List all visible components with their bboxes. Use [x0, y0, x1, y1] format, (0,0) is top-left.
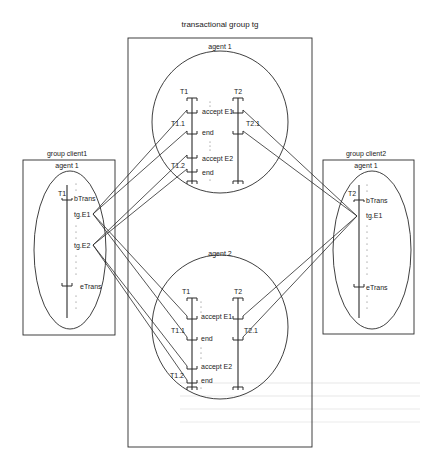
client2-etrans: eTrans: [366, 284, 388, 291]
client2-agent-label: agent 1: [354, 162, 377, 170]
transaction-diagram: transactional group tg agent 1 T1 accept…: [0, 0, 428, 462]
client2-title: group client2: [346, 150, 386, 158]
client2-ellipse: [333, 171, 411, 329]
transactional-group-title: transactional group tg: [182, 20, 259, 29]
tg-a1-t2-label: T2: [234, 88, 242, 95]
tg-a1-accept-e2: accept E2: [202, 155, 233, 163]
client2-box: [323, 160, 414, 334]
client1-tg-e2: tg.E2: [74, 242, 90, 250]
tg-a2-end-1: end: [201, 335, 213, 342]
tg-a2-t1-label: T1: [182, 288, 190, 295]
client2-btrans: bTrans: [366, 197, 388, 204]
client1-agent-label: agent 1: [55, 162, 78, 170]
client1-btrans: bTrans: [74, 195, 96, 202]
client2-tg-e1: tg.E1: [366, 212, 382, 220]
group-client1: group client1 agent 1 T1 bTrans tg.E1 tg…: [23, 150, 115, 335]
client1-etrans: eTrans: [80, 283, 102, 290]
client1-box: [23, 160, 115, 335]
tg-a1-end-1: end: [202, 129, 214, 136]
tg-a1-accept-e1: accept E1: [202, 108, 233, 116]
tg-a2-accept-e1: accept E1: [201, 313, 232, 321]
client1-tg-e1: tg.E1: [74, 211, 90, 219]
tg-a1-end-2: end: [202, 169, 214, 176]
bleed-through-text: [180, 382, 420, 423]
tg-a2-accept-e2: accept E2: [201, 363, 232, 371]
tg-a1-t1-label: T1: [180, 88, 188, 95]
client1-thread-label: T1: [58, 190, 66, 197]
message-lines: [93, 110, 357, 380]
tg-a2-t2-label: T2: [234, 288, 242, 295]
tg-a2-end-2: end: [201, 377, 213, 384]
tg-agent-1-label: agent 1: [208, 43, 231, 51]
client2-thread-label: T2: [348, 190, 356, 197]
group-client2: group client2 agent 1 T2 bTrans tg.E1 eT…: [323, 150, 414, 334]
client1-title: group client1: [47, 150, 87, 158]
tg-agent-1: agent 1 T1 accept E1 end accept E2 end T…: [152, 43, 288, 193]
tg-agent-2: agent 2 T1 accept E1 end accept E2 end T…: [152, 250, 288, 399]
tg-agent-2-label: agent 2: [208, 250, 231, 258]
tg-a2-t11-label: T1.1: [171, 327, 185, 334]
